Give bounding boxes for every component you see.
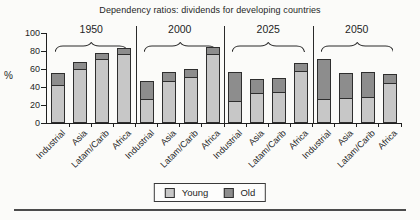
group-brace bbox=[232, 39, 305, 50]
group-year-label: 2050 bbox=[313, 23, 402, 35]
stacked-bar-1950-asia bbox=[73, 62, 87, 123]
x-category-label: Asia bbox=[21, 128, 90, 197]
stacked-bar-2025-africa bbox=[294, 63, 308, 124]
x-category-label: Africa bbox=[65, 128, 134, 197]
group-brace bbox=[321, 39, 394, 50]
x-category-label: Asia bbox=[286, 128, 355, 197]
x-tick-mark bbox=[356, 123, 357, 127]
old-swatch-icon bbox=[223, 188, 233, 198]
y-axis-label: % bbox=[4, 70, 13, 81]
group-separator bbox=[224, 26, 225, 123]
stacked-bar-2025-latam-carib bbox=[272, 78, 286, 123]
old-segment bbox=[163, 73, 175, 82]
chart-title: Dependency ratios: dividends for develop… bbox=[0, 5, 420, 15]
old-segment bbox=[141, 82, 153, 100]
old-segment bbox=[295, 64, 307, 72]
group-separator bbox=[136, 26, 137, 123]
x-category-label: Latam/Carib bbox=[308, 128, 377, 197]
stacked-bar-1950-africa bbox=[117, 48, 131, 123]
x-tick-mark bbox=[290, 123, 291, 127]
stacked-bar-2000-africa bbox=[206, 47, 220, 123]
plot-area: 1950200020252050 bbox=[46, 33, 401, 124]
x-tick-mark bbox=[91, 123, 92, 127]
stacked-bar-2050-africa bbox=[383, 74, 397, 123]
x-tick-mark bbox=[401, 123, 402, 127]
chart-figure: Dependency ratios: dividends for develop… bbox=[0, 0, 420, 220]
stacked-bar-2050-industrial bbox=[317, 59, 331, 123]
stacked-bar-2000-asia bbox=[162, 72, 176, 124]
x-tick-mark bbox=[334, 123, 335, 127]
group-year-label: 2000 bbox=[136, 23, 225, 35]
legend-label-old: Old bbox=[240, 187, 255, 198]
y-tick-label: 20 bbox=[8, 100, 40, 111]
stacked-bar-1950-latam-carib bbox=[95, 53, 109, 123]
old-segment bbox=[207, 48, 219, 54]
x-tick-mark bbox=[157, 123, 158, 127]
x-tick-mark bbox=[201, 123, 202, 127]
old-segment bbox=[74, 63, 86, 70]
y-tick-label: 40 bbox=[8, 82, 40, 93]
old-segment bbox=[318, 60, 330, 101]
x-category-label: Africa bbox=[330, 128, 399, 197]
x-tick-mark bbox=[135, 123, 136, 127]
old-segment bbox=[273, 79, 285, 93]
old-segment bbox=[340, 74, 352, 98]
stacked-bar-2050-latam-carib bbox=[361, 72, 375, 123]
x-tick-mark bbox=[312, 123, 313, 127]
old-segment bbox=[251, 80, 263, 94]
group-separator bbox=[313, 26, 314, 123]
stacked-bar-2025-asia bbox=[250, 79, 264, 123]
old-segment bbox=[96, 54, 108, 60]
y-tick-label: 80 bbox=[8, 46, 40, 57]
x-tick-mark bbox=[246, 123, 247, 127]
x-category-label: Industrial bbox=[264, 128, 333, 197]
legend-label-young: Young bbox=[182, 187, 209, 198]
stacked-bar-2050-asia bbox=[339, 73, 353, 123]
y-tick-label: 100 bbox=[8, 28, 40, 39]
stacked-bar-2000-industrial bbox=[140, 81, 154, 124]
group-year-label: 1950 bbox=[47, 23, 136, 35]
old-segment bbox=[384, 75, 396, 84]
old-segment bbox=[185, 70, 197, 78]
legend: Young Old bbox=[154, 183, 266, 202]
group-year-label: 2025 bbox=[224, 23, 313, 35]
old-segment bbox=[118, 49, 130, 54]
stacked-bar-2000-latam-carib bbox=[184, 69, 198, 123]
x-tick-mark bbox=[113, 123, 114, 127]
stacked-bar-2025-industrial bbox=[228, 72, 242, 124]
x-category-label: Industrial bbox=[87, 128, 156, 197]
y-tick-label: 0 bbox=[8, 118, 40, 129]
old-segment bbox=[362, 73, 374, 97]
old-segment bbox=[229, 73, 241, 103]
x-tick-mark bbox=[378, 123, 379, 127]
x-category-label: Industrial bbox=[0, 128, 67, 197]
x-category-label: Latam/Carib bbox=[43, 128, 112, 197]
x-tick-mark bbox=[69, 123, 70, 127]
x-tick-mark bbox=[268, 123, 269, 127]
stacked-bar-1950-industrial bbox=[51, 73, 65, 123]
old-segment bbox=[52, 74, 64, 86]
x-tick-mark bbox=[224, 123, 225, 127]
x-tick-mark bbox=[179, 123, 180, 127]
young-swatch-icon bbox=[165, 188, 175, 198]
bottom-rule bbox=[14, 209, 406, 211]
